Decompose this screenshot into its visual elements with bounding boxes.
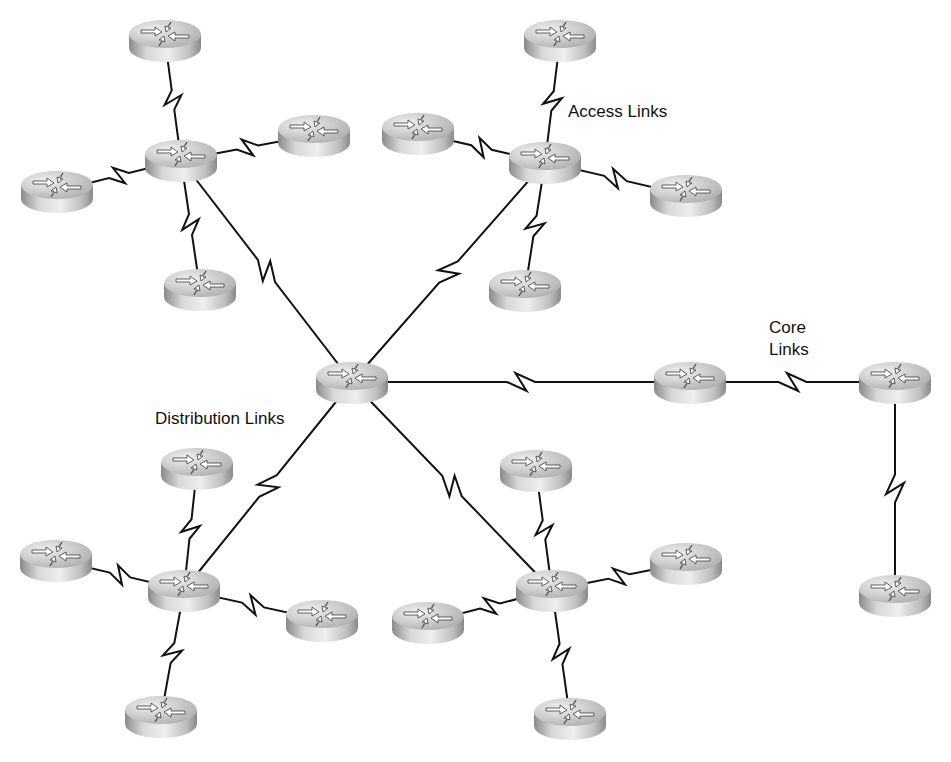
router-icon [382, 113, 454, 155]
routers-layer [20, 20, 931, 740]
core-link [886, 382, 904, 595]
access-links-label: Access Links [568, 102, 667, 121]
distribution-links-label: Distribution Links [155, 409, 284, 428]
router-icon [164, 269, 236, 311]
router-icon [534, 698, 606, 740]
router-icon [20, 540, 92, 582]
router-icon [516, 570, 588, 612]
router-icon [161, 448, 233, 490]
router-icon [489, 270, 561, 312]
router-icon [859, 575, 931, 617]
router-icon [286, 600, 358, 642]
router-icon [148, 570, 220, 612]
router-icon [859, 362, 931, 404]
router-icon [650, 175, 722, 217]
router-icon [145, 140, 217, 182]
router-icon [392, 602, 464, 644]
router-icon [654, 362, 726, 404]
router-icon [524, 20, 596, 62]
router-icon [500, 450, 572, 492]
router-icon [316, 362, 388, 404]
router-icon [125, 696, 197, 738]
router-icon [129, 20, 201, 62]
core-links-label: CoreLinks [769, 318, 809, 359]
core-link [352, 373, 690, 391]
router-icon [278, 115, 350, 157]
router-icon [650, 543, 722, 585]
router-icon [509, 142, 581, 184]
network-diagram: Access LinksCoreLinksDistribution Links [0, 0, 951, 762]
router-icon [21, 171, 93, 213]
